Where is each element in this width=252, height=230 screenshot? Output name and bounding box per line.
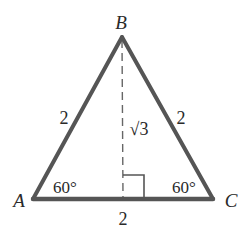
altitude-label: √3 — [130, 119, 149, 139]
vertex-label-a: A — [11, 190, 25, 211]
vertex-label-c: C — [225, 190, 238, 211]
angle-label-a: 60° — [53, 178, 77, 197]
side-label-bc: 2 — [177, 108, 186, 128]
angle-label-c: 60° — [172, 178, 196, 197]
altitude-line — [122, 40, 123, 198]
triangle-diagram: B A C 2 2 2 √3 60° 60° — [0, 0, 252, 230]
vertex-label-b: B — [115, 12, 127, 33]
side-label-ac: 2 — [119, 209, 128, 229]
side-label-ab: 2 — [60, 108, 69, 128]
side-ab — [33, 37, 122, 199]
right-angle-marker — [123, 175, 144, 198]
